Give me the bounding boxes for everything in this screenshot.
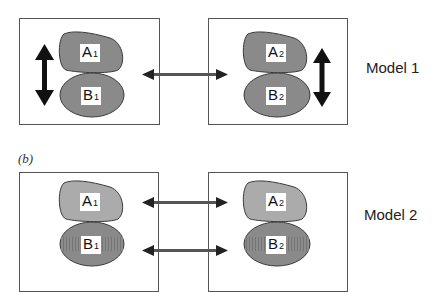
label-a1-model2: A1: [80, 193, 100, 211]
horizontal-arrow-icon: [142, 197, 228, 208]
vertical-arrow-icon: [313, 48, 331, 107]
label-a2-model1: A2: [266, 44, 286, 62]
model-2-label: Model 2: [364, 206, 417, 223]
horizontal-arrow-icon: [142, 69, 228, 80]
label-index: 1: [93, 49, 98, 59]
label-letter: B: [83, 235, 93, 252]
label-index: 2: [279, 92, 284, 102]
label-index: 2: [279, 49, 284, 59]
label-letter: B: [268, 235, 278, 252]
label-letter: B: [268, 86, 278, 103]
label-letter: A: [268, 192, 278, 209]
label-b1-model2: B1: [81, 236, 101, 254]
label-index: 1: [93, 198, 98, 208]
label-index: 2: [279, 198, 284, 208]
label-b2-model1: B2: [266, 87, 286, 105]
horizontal-arrow-icon: [142, 245, 228, 256]
label-index: 1: [94, 241, 99, 251]
label-letter: B: [83, 86, 93, 103]
label-a2-model2: A2: [266, 193, 286, 211]
label-letter: A: [268, 43, 278, 60]
vertical-arrow-icon: [35, 44, 54, 106]
label-letter: A: [82, 192, 92, 209]
label-index: 2: [279, 241, 284, 251]
label-letter: A: [82, 43, 92, 60]
label-a1-model1: A1: [80, 44, 100, 62]
panel-b-tag: (b): [18, 151, 33, 167]
label-b2-model2: B2: [266, 236, 286, 254]
model-1-label: Model 1: [366, 59, 419, 76]
label-index: 1: [94, 92, 99, 102]
label-b1-model1: B1: [81, 87, 101, 105]
